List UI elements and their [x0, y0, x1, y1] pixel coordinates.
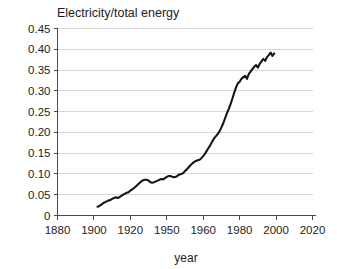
- y-tick-label: 0.40: [28, 43, 50, 55]
- axes: [58, 29, 316, 216]
- chart-figure: 00.050.100.150.200.250.300.350.400.45 18…: [0, 0, 337, 269]
- x-axis-ticks: 18801900192019501960198020002020: [45, 216, 326, 236]
- x-tick-label: 1960: [190, 224, 216, 236]
- x-tick-label: 1920: [118, 224, 144, 236]
- y-tick-label: 0.25: [28, 106, 50, 118]
- y-tick-label: 0.45: [28, 23, 50, 35]
- data-series-line: [98, 53, 275, 207]
- x-tick-label: 1900: [81, 224, 107, 236]
- y-tick-label: 0.15: [28, 147, 50, 159]
- x-tick-label: 2000: [263, 224, 289, 236]
- chart-title: Electricity/total energy: [57, 6, 180, 20]
- chart-canvas: 00.050.100.150.200.250.300.350.400.45 18…: [0, 0, 337, 269]
- x-tick-label: 1980: [227, 224, 253, 236]
- y-tick-label: 0.30: [28, 85, 50, 97]
- x-axis-title: year: [174, 251, 197, 265]
- y-tick-label: 0.05: [28, 189, 50, 201]
- x-tick-label: 2020: [300, 224, 326, 236]
- x-tick-label: 1950: [154, 224, 180, 236]
- y-axis-ticks: 00.050.100.150.200.250.300.350.400.45: [28, 23, 57, 222]
- y-tick-label: 0.35: [28, 64, 50, 76]
- y-tick-label: 0.10: [28, 168, 50, 180]
- y-tick-label: 0.20: [28, 126, 50, 138]
- y-tick-label: 0: [44, 210, 50, 222]
- x-tick-label: 1880: [45, 224, 71, 236]
